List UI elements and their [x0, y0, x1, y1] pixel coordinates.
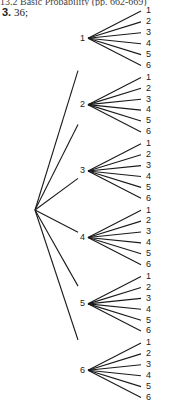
leaf-label: 6	[146, 392, 151, 402]
leaf-label: 5	[146, 115, 151, 125]
leaf-label: 6	[146, 126, 151, 136]
leaf-label: 2	[146, 348, 151, 358]
leaf-label: 6	[146, 60, 151, 70]
leaf-label: 4	[146, 304, 151, 314]
leaf-label: 2	[146, 215, 151, 225]
node-label: 5	[80, 298, 85, 308]
leaf-label: 5	[146, 315, 151, 325]
leaf-label: 4	[146, 370, 151, 380]
branch-line	[35, 125, 78, 210]
node-label: 2	[80, 99, 85, 109]
leaf-label: 1	[146, 138, 151, 148]
leaf-label: 5	[146, 182, 151, 192]
leaf-label: 5	[146, 49, 151, 59]
leaf-label: 4	[146, 237, 151, 247]
leaf-label: 5	[146, 248, 151, 258]
leaf-label: 3	[146, 94, 151, 104]
leaf-label: 2	[146, 149, 151, 159]
leaf-label: 1	[146, 205, 151, 215]
leaf-label: 3	[146, 226, 151, 236]
leaf-label: 6	[146, 193, 151, 203]
leaf-label: 6	[146, 259, 151, 269]
leaf-label: 4	[146, 38, 151, 48]
leaf-label: 2	[146, 83, 151, 93]
tree-diagram: 1123456212345631234564123456512345661234…	[0, 0, 171, 416]
node-label: 4	[80, 232, 85, 242]
leaf-label: 1	[146, 271, 151, 281]
leaf-label: 3	[146, 293, 151, 303]
leaf-label: 6	[146, 325, 151, 335]
leaf-label: 4	[146, 104, 151, 114]
node-label: 3	[80, 165, 85, 175]
leaf-label: 1	[146, 72, 151, 82]
leaf-label: 2	[146, 16, 151, 26]
leaf-label: 3	[146, 359, 151, 369]
node-label: 6	[80, 365, 85, 375]
leaf-label: 3	[146, 160, 151, 170]
leaf-label: 3	[146, 27, 151, 37]
leaf-label: 4	[146, 171, 151, 181]
branch-line	[35, 71, 78, 210]
leaf-label: 1	[146, 5, 151, 15]
node-label: 1	[80, 33, 85, 43]
leaf-label: 2	[146, 282, 151, 292]
leaf-label: 5	[146, 381, 151, 391]
branch-line	[35, 178, 78, 210]
leaf-label: 1	[146, 337, 151, 347]
